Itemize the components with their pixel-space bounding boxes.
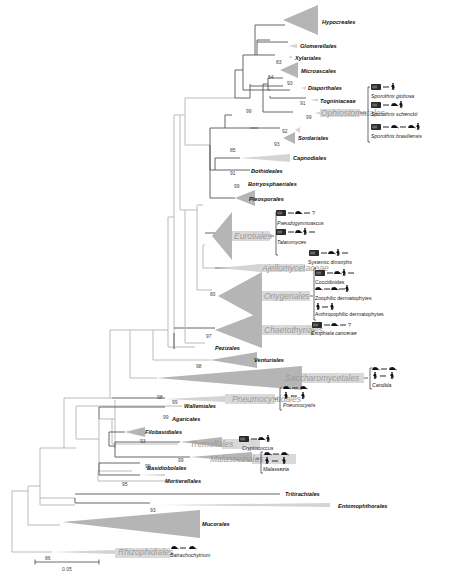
annotation-onygenales: Coccidioides Zoophilic dermatophytes Ant… (310, 268, 384, 320)
svg-text:99: 99 (145, 463, 151, 469)
svg-text:95: 95 (122, 481, 128, 487)
clade-chaetothyriales (215, 312, 262, 348)
label-rhizophidiales: Rhizophidiales (118, 547, 174, 557)
clade-mucorales (62, 510, 200, 538)
annotation-ajellomycetaceae: Systemic dimorphs (308, 249, 352, 265)
clade-hypocreales (283, 5, 318, 35)
svg-text:85: 85 (230, 147, 236, 153)
label-eurotiales: Eurotiales (234, 231, 273, 241)
label-sordariales: Sordariales (298, 135, 328, 141)
svg-text:99: 99 (246, 108, 252, 114)
label-dothideales: Dothideales (251, 168, 283, 174)
clade-togniniaceae (310, 99, 318, 102)
clade-venturiales (210, 352, 257, 368)
clade-mortierellales (140, 474, 165, 476)
label-glomerellales: Glomerellales (300, 43, 337, 49)
svg-text:Sporothrix brasiliensis: Sporothrix brasiliensis (371, 133, 422, 139)
human-icon (391, 83, 394, 90)
clade-microascales (280, 62, 298, 78)
label-capnodiales: Capnodiales (293, 155, 326, 161)
clade-onygenales (218, 272, 262, 320)
svg-text:Exophiala cancerae: Exophiala cancerae (311, 330, 357, 336)
svg-text:84: 84 (268, 74, 274, 80)
label-diaporthales: Diaporthales (308, 85, 342, 91)
svg-text:99: 99 (234, 183, 240, 189)
svg-text:Zoophilic dermatophytes: Zoophilic dermatophytes (315, 295, 372, 301)
svg-text:Pneumocystis: Pneumocystis (283, 402, 316, 408)
mouse-icon (391, 103, 399, 106)
svg-text:Sporothrix schenckii: Sporothrix schenckii (371, 111, 418, 117)
label-wallemiales: Wallemiales (184, 403, 216, 409)
svg-text:Systemic dimorphs: Systemic dimorphs (308, 259, 352, 265)
svg-text:Pseudogymnoascus: Pseudogymnoascus (277, 220, 324, 226)
clade-entomophthorales (160, 503, 330, 507)
annotation-rhizophidiales: Batrachochytrium (170, 546, 211, 558)
label-onygenales: Onygenales (264, 291, 310, 301)
label-hypocreales: Hypocreales (322, 19, 355, 25)
label-mucorales: Mucorales (202, 521, 230, 527)
label-filobasidiales: Filobasidiales (145, 429, 182, 435)
label-microascales: Microascales (301, 68, 336, 74)
svg-text:98: 98 (196, 363, 202, 369)
svg-text:Anthropophilic dermatophytes: Anthropophilic dermatophytes (315, 311, 384, 317)
svg-text:83: 83 (276, 59, 282, 65)
svg-text:Malassezia: Malassezia (263, 466, 289, 472)
svg-text:97: 97 (206, 333, 212, 339)
label-agaricales: Agaricales (171, 416, 200, 422)
svg-text:Talaromyces: Talaromyces (277, 239, 307, 245)
svg-text:91: 91 (300, 100, 306, 106)
scale-bar-label: 0.05 (62, 566, 72, 572)
clade-capnodiales (240, 154, 290, 162)
clade-unnamed-92 (295, 127, 300, 133)
annotation-eurotiales: ? Pseudogymnoascus Talaromyces (270, 210, 324, 255)
svg-text:86: 86 (45, 555, 51, 561)
clade-xylariales (288, 56, 292, 59)
clade-ajellomycetaceae (218, 264, 260, 272)
svg-text:Batrachochytrium: Batrachochytrium (170, 552, 211, 558)
svg-text:Sporothrix globosa: Sporothrix globosa (371, 93, 414, 99)
svg-text:80: 80 (210, 291, 216, 297)
clade-ophiostomatales (315, 112, 320, 115)
bootstrap-values: 83 84 93 91 99 92 93 85 91 99 99 80 97 9… (45, 59, 312, 561)
clade-saccharomycetales (157, 366, 302, 390)
label-botryosphaeriales: Botryosphaeriales (248, 181, 297, 187)
label-venturiales: Venturiales (254, 357, 284, 363)
svg-text:93: 93 (287, 80, 293, 86)
svg-text:99: 99 (178, 457, 184, 463)
label-xylariales: Xylariales (294, 55, 321, 61)
annotation-saccharomycetales: Candida (364, 367, 397, 389)
clade-filobasidiales (125, 427, 145, 437)
svg-text:?: ? (312, 210, 315, 216)
svg-text:93: 93 (150, 507, 156, 513)
clade-glomerellales (288, 44, 297, 48)
svg-text:99: 99 (306, 114, 312, 120)
label-togniniaceae: Togniniaceae (320, 98, 356, 104)
label-pezizales: Pezizales (215, 345, 240, 351)
svg-text:98: 98 (157, 394, 163, 400)
svg-text:92: 92 (282, 128, 288, 134)
svg-text:91: 91 (230, 170, 236, 176)
scale-bar: 0.05 (35, 560, 99, 573)
svg-text:Candida: Candida (372, 382, 391, 388)
label-tremellales: Tremellales (190, 439, 234, 449)
label-tritirachiales: Tritirachiales (285, 491, 320, 497)
label-saccharomycetales: Saccharomycetales (285, 373, 360, 383)
label-entomophthorales: Entomophthorales (338, 503, 387, 509)
svg-text:93: 93 (274, 141, 280, 147)
svg-text:Coccidioides: Coccidioides (315, 279, 345, 285)
human-icon (399, 101, 402, 108)
clade-eurotiales (212, 212, 232, 260)
label-basidiobolales: Basidiobolales (147, 465, 186, 471)
svg-text:93: 93 (140, 438, 146, 444)
label-mortierellales: Mortierellales (165, 478, 201, 484)
svg-text:99: 99 (172, 399, 178, 405)
clade-diaporthales (301, 87, 306, 90)
svg-text:99: 99 (163, 414, 169, 420)
phylogenetic-tree: Hypocreales Glomerellales Xylariales Mic… (0, 0, 450, 585)
clade-rhizophidiales (52, 550, 115, 554)
svg-text:?: ? (348, 322, 351, 328)
label-pleosporales: Pleosporales (249, 196, 284, 202)
svg-text:Cryptococcus: Cryptococcus (242, 445, 274, 451)
